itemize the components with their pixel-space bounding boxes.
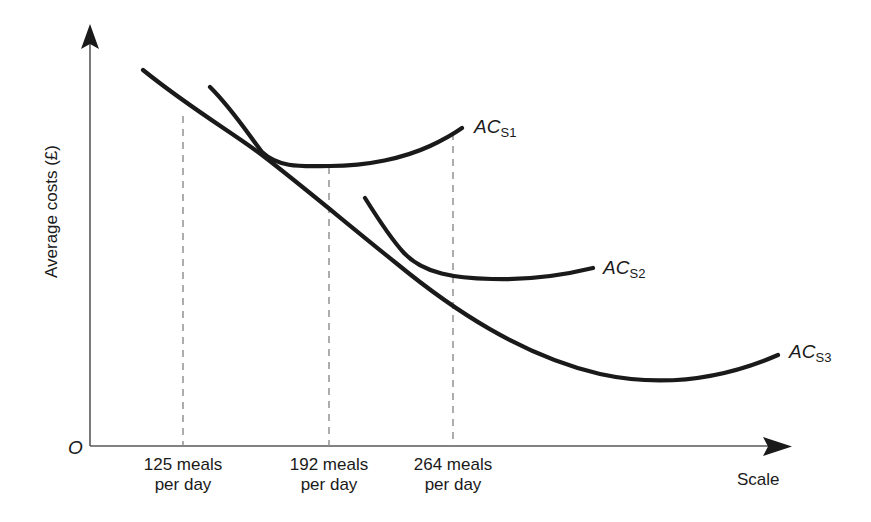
- curve-ac-s3: [143, 70, 778, 380]
- chart-canvas: [0, 0, 871, 522]
- curve-label-ac-s3-sub: S3: [815, 350, 831, 365]
- curve-label-ac-s1: ACS1: [474, 116, 517, 138]
- curve-label-ac-s2-sub: S2: [629, 266, 645, 281]
- x-tick-label-125-line2: per day: [123, 475, 243, 495]
- curve-label-ac-s1-base: AC: [474, 116, 500, 137]
- x-tick-label-125: 125 meals per day: [123, 455, 243, 495]
- curve-label-ac-s2-base: AC: [603, 257, 629, 278]
- x-tick-label-125-line1: 125 meals: [123, 455, 243, 475]
- y-axis-title: Average costs (£): [42, 145, 62, 278]
- x-tick-label-264-line2: per day: [393, 475, 513, 495]
- x-tick-label-192-line1: 192 meals: [269, 455, 389, 475]
- x-axis-title: Scale: [737, 470, 780, 490]
- curve-label-ac-s1-sub: S1: [500, 125, 516, 140]
- x-tick-label-264-line1: 264 meals: [393, 455, 513, 475]
- curve-label-ac-s3: ACS3: [789, 341, 832, 363]
- x-tick-label-192-line2: per day: [269, 475, 389, 495]
- curve-ac-s1: [210, 87, 462, 166]
- x-tick-label-264: 264 meals per day: [393, 455, 513, 495]
- curve-label-ac-s2: ACS2: [603, 257, 646, 279]
- x-tick-label-192: 192 meals per day: [269, 455, 389, 495]
- curve-label-ac-s3-base: AC: [789, 341, 815, 362]
- origin-label: O: [68, 437, 83, 459]
- average-cost-curves-figure: Average costs (£) Scale O 125 meals per …: [0, 0, 871, 522]
